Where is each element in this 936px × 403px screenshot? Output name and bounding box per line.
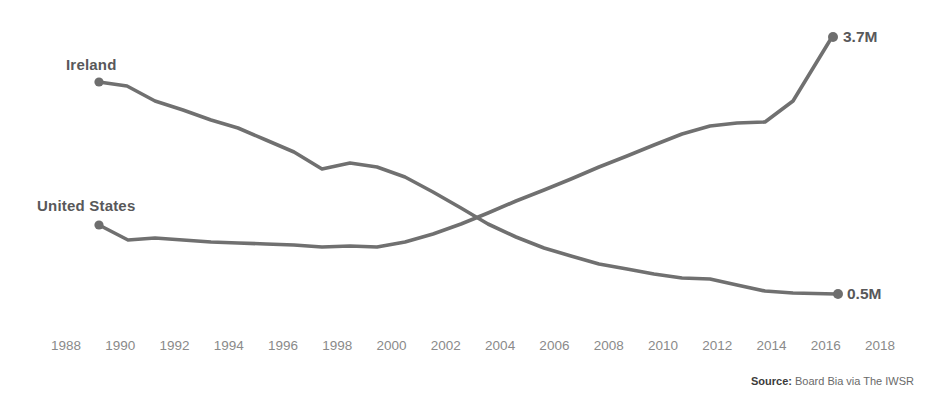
- x-tick-label: 2018: [865, 338, 895, 353]
- series-label-ireland: Ireland: [66, 56, 117, 73]
- x-tick-label: 2014: [756, 338, 786, 353]
- end-value-label-united-states: 3.7M: [843, 28, 877, 46]
- end-value-label-ireland: 0.5M: [847, 285, 881, 303]
- end-dot-ireland: [833, 289, 843, 299]
- series-line-ireland: [99, 82, 836, 294]
- x-tick-label: 2000: [377, 338, 407, 353]
- source-note: Source: Board Bia via The IWSR: [751, 375, 914, 387]
- x-tick-label: 2012: [702, 338, 732, 353]
- start-dot-united-states: [94, 220, 103, 229]
- source-prefix: Source:: [751, 375, 792, 387]
- x-tick-label: 2010: [648, 338, 678, 353]
- chart-container: Ireland United States 3.7M 0.5M 19881990…: [0, 0, 936, 403]
- x-tick-label: 1994: [214, 338, 244, 353]
- source-text: Board Bia via The IWSR: [792, 375, 914, 387]
- x-tick-label: 2002: [431, 338, 461, 353]
- x-tick-label: 2008: [594, 338, 624, 353]
- x-tick-label: 1998: [322, 338, 352, 353]
- x-axis: 1988199019921994199619982000200220042006…: [0, 338, 936, 362]
- x-tick-label: 2006: [539, 338, 569, 353]
- end-dot-united-states: [828, 32, 838, 42]
- start-dot-ireland: [94, 77, 103, 86]
- x-tick-label: 2016: [811, 338, 841, 353]
- x-tick-label: 1990: [105, 338, 135, 353]
- x-tick-label: 1988: [51, 338, 81, 353]
- x-tick-label: 1992: [160, 338, 190, 353]
- series-label-united-states: United States: [37, 197, 135, 214]
- x-tick-label: 1996: [268, 338, 298, 353]
- series-line-united-states: [99, 37, 832, 247]
- x-tick-label: 2004: [485, 338, 515, 353]
